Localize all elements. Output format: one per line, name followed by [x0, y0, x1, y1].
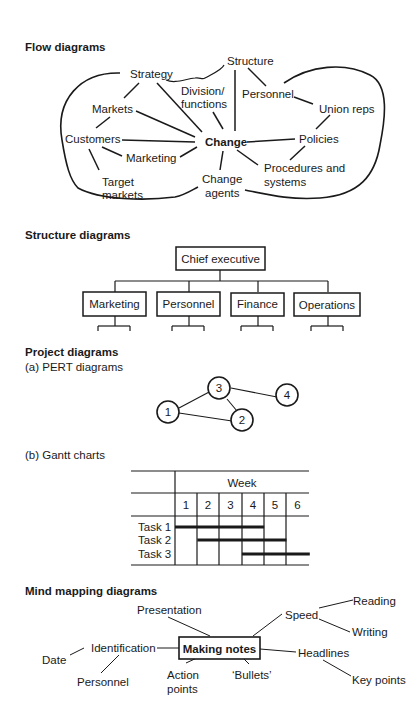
- gantt-week-2: 2: [205, 499, 211, 511]
- gantt-header-week: Week: [227, 477, 256, 489]
- gantt-week-6: 6: [294, 499, 300, 511]
- flow-node-systems: systems: [264, 176, 306, 188]
- org-label-chief-executive: Chief executive: [181, 253, 260, 265]
- org-label-finance: Finance: [237, 298, 278, 310]
- flow-node-change: Change: [205, 136, 247, 148]
- structure-heading: Structure diagrams: [25, 229, 130, 241]
- flow-node-target: Target: [102, 176, 135, 188]
- pert-node-4-label: 4: [284, 389, 291, 401]
- pert-label: (a) PERT diagrams: [25, 361, 123, 373]
- gantt-week-3: 3: [227, 499, 233, 511]
- mind-node-headlines: Headlines: [298, 647, 349, 659]
- gantt-week-4: 4: [250, 499, 257, 511]
- flow-node-functions: functions: [181, 98, 227, 110]
- mind-node-reading: Reading: [353, 595, 396, 607]
- gantt-task-1-label: Task 1: [138, 521, 171, 533]
- mind-node-writing: Writing: [352, 626, 388, 638]
- flow-node-markets: Markets: [92, 103, 133, 115]
- flow-node-union-reps: Union reps: [319, 103, 375, 115]
- flow-node-structure: Structure: [227, 55, 274, 67]
- mind-node-presentation: Presentation: [137, 604, 202, 616]
- mind-node-action: Action: [167, 669, 199, 681]
- flow-node-marketing: Marketing: [126, 152, 177, 164]
- gantt-week-5: 5: [272, 499, 278, 511]
- flow-node-target-markets: markets: [102, 189, 143, 201]
- pert-node-1-label: 1: [165, 406, 171, 418]
- flow-node-change-agents: Change: [202, 173, 242, 185]
- project-heading: Project diagrams: [25, 346, 118, 358]
- mind-node-speed: Speed: [285, 609, 318, 621]
- gantt-week-1: 1: [183, 499, 189, 511]
- flow-node-policies: Policies: [299, 133, 339, 145]
- flow-node-strategy: Strategy: [130, 68, 173, 80]
- gantt-task-2-label: Task 2: [138, 534, 171, 546]
- flow-heading: Flow diagrams: [25, 41, 106, 53]
- org-label-operations: Operations: [299, 299, 356, 311]
- flow-node-customers: Customers: [65, 133, 121, 145]
- flow-node-personnel: Personnel: [242, 88, 294, 100]
- mind-node-bullets: ‘Bullets’: [232, 669, 272, 681]
- flow-node-agents: agents: [205, 187, 240, 199]
- flow-node-procedures: Procedures and: [264, 162, 345, 174]
- org-label-personnel: Personnel: [163, 298, 215, 310]
- mind-heading: Mind mapping diagrams: [25, 585, 157, 597]
- flow-node-division: Division/: [181, 85, 225, 97]
- mind-node-key-points: Key points: [352, 674, 406, 686]
- gantt-bar-task-2: [197, 539, 286, 542]
- gantt-label: (b) Gantt charts: [25, 449, 105, 461]
- mind-node-personnel: Personnel: [77, 676, 129, 688]
- gantt-bar-task-1: [175, 526, 264, 529]
- pert-nodes: [157, 377, 298, 431]
- mind-node-action-points: points: [167, 683, 198, 695]
- mind-node-date: Date: [42, 654, 66, 666]
- mind-center-label: Making notes: [183, 643, 256, 655]
- pert-node-2-label: 2: [239, 414, 245, 426]
- org-label-marketing: Marketing: [89, 298, 140, 310]
- gantt-bar-task-3: [242, 553, 310, 556]
- diagram-canvas: Flow diagrams Strategy Structure Divisio…: [0, 0, 418, 715]
- pert-node-3-label: 3: [216, 382, 222, 394]
- mind-node-identification: Identification: [91, 642, 156, 654]
- gantt-task-3-label: Task 3: [138, 548, 171, 560]
- flow-brace: [166, 65, 224, 82]
